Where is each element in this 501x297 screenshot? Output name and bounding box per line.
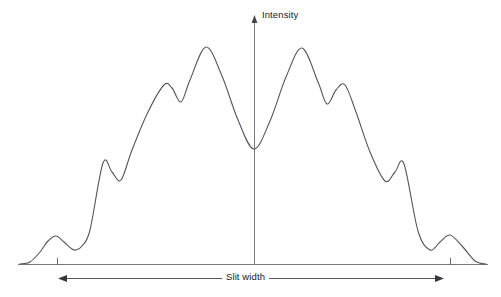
- y-axis-arrowhead-icon: [252, 15, 258, 23]
- plot-canvas: [0, 0, 501, 297]
- slit-width-arrowhead-left-icon: [58, 275, 67, 282]
- y-axis-label: Intensity: [262, 9, 298, 20]
- x-axis-label: Slit width: [222, 271, 269, 282]
- slit-width-arrowhead-right-icon: [435, 275, 444, 282]
- intensity-profile-figure: Intensity Slit width: [0, 0, 501, 297]
- intensity-curve: [20, 47, 486, 264]
